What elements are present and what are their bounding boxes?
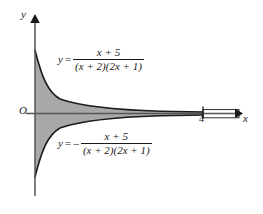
equation-upper-lhs: y [58,54,63,65]
equation-lower-lhs: y [58,138,63,149]
equation-upper-numerator: x + 5 [94,47,123,59]
equation-upper-fraction: x + 5 (x + 2)(2x + 1) [73,47,144,72]
equation-lower-numerator: x + 5 [102,131,131,143]
equation-upper-equals: = [65,54,71,65]
equation-upper-denominator: (x + 2)(2x + 1) [73,60,144,72]
x-axis-label: x [243,113,248,124]
y-axis-label: y [21,9,26,20]
equation-upper: y = x + 5 (x + 2)(2x + 1) [58,47,144,72]
x-tick-label-4: 4 [199,114,204,124]
equation-lower: y = − x + 5 (x + 2)(2x + 1) [58,131,152,156]
origin-label: O [19,105,27,116]
equation-lower-equals: = [65,138,71,149]
equation-lower-fraction: x + 5 (x + 2)(2x + 1) [81,131,152,156]
graph-canvas [0,0,263,214]
equation-lower-denominator: (x + 2)(2x + 1) [81,144,152,156]
equation-lower-sign: − [73,138,80,150]
y-axis-arrowhead [30,14,40,23]
figure-container: y x O 4 y = x + 5 (x + 2)(2x + 1) y = − … [0,0,263,214]
